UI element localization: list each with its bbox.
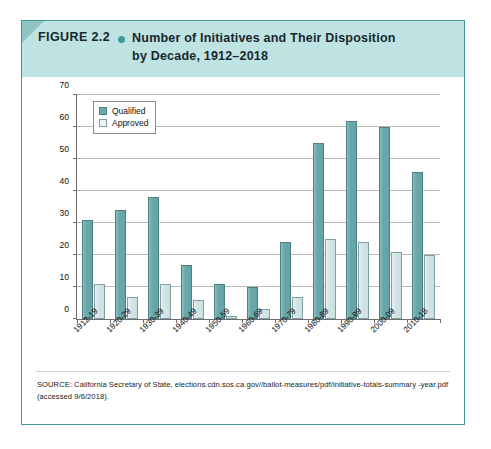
y-tick-label: 50	[60, 144, 69, 154]
x-label-slot: 1912-19	[76, 323, 109, 365]
x-label-slot: 1930-39	[142, 323, 175, 365]
bar-qualified	[346, 121, 357, 319]
legend-label: Approved	[112, 118, 148, 128]
bar-group	[341, 95, 374, 319]
x-axis-labels: 1912-191920-291930-391940-491950-591960-…	[76, 323, 440, 365]
x-label-slot: 1950-59	[208, 323, 241, 365]
figure-frame: FIGURE 2.2 Number of Initiatives and The…	[21, 20, 465, 425]
source-divider	[36, 371, 450, 372]
bar-group	[242, 95, 275, 319]
plot-wrapper: 010203040506070 1912-191920-291930-39194…	[30, 91, 454, 359]
source-note: SOURCE: California Secretary of State, e…	[37, 379, 449, 404]
bar-group	[209, 95, 242, 319]
x-label-slot: 2010-18	[407, 323, 440, 365]
y-tick-label: 20	[60, 240, 69, 250]
figure-title-line-1: Number of Initiatives and Their Disposit…	[132, 31, 396, 45]
y-tick-label: 30	[60, 208, 69, 218]
bar-qualified	[379, 127, 390, 319]
x-label-slot: 1940-49	[175, 323, 208, 365]
bar-qualified	[412, 172, 423, 319]
x-label-slot: 1980-89	[308, 323, 341, 365]
bar-group	[374, 95, 407, 319]
legend-swatch-icon	[99, 107, 107, 115]
bar-group	[308, 95, 341, 319]
bullet-dot-icon	[118, 36, 125, 43]
figure-header: FIGURE 2.2 Number of Initiatives and The…	[22, 21, 464, 77]
figure-title-line-2: by Decade, 1912–2018	[132, 48, 396, 66]
bar-qualified	[313, 143, 324, 319]
bar-qualified	[82, 220, 93, 319]
page-title: Number of Initiatives and Their Disposit…	[132, 30, 396, 66]
figure-number: FIGURE 2.2	[38, 30, 110, 44]
x-label-slot: 1960-69	[241, 323, 274, 365]
chart-panel: 010203040506070 1912-191920-291930-39194…	[22, 77, 464, 371]
x-tick-mark	[440, 319, 441, 323]
y-tick-label: 60	[60, 112, 69, 122]
x-label-slot: 1920-29	[109, 323, 142, 365]
legend-swatch-icon	[99, 119, 107, 127]
legend-label: Qualified	[112, 106, 146, 116]
x-label-slot: 1970-79	[275, 323, 308, 365]
x-label-slot: 1990-99	[341, 323, 374, 365]
x-label-slot: 2000-09	[374, 323, 407, 365]
y-tick-label: 40	[60, 176, 69, 186]
bar-group	[275, 95, 308, 319]
y-tick-label: 10	[60, 272, 69, 282]
legend-item[interactable]: Qualified	[99, 105, 148, 117]
figure-header-text: FIGURE 2.2 Number of Initiatives and The…	[38, 30, 456, 66]
chart-legend: QualifiedApproved	[93, 101, 156, 134]
bar-qualified	[115, 210, 126, 319]
bar-approved	[325, 239, 336, 319]
bar-group	[407, 95, 440, 319]
y-tick-label: 0	[64, 304, 69, 314]
bar-qualified	[148, 197, 159, 319]
y-tick-label: 70	[60, 80, 69, 90]
bar-group	[176, 95, 209, 319]
bar-approved	[358, 242, 369, 319]
legend-item[interactable]: Approved	[99, 117, 148, 129]
